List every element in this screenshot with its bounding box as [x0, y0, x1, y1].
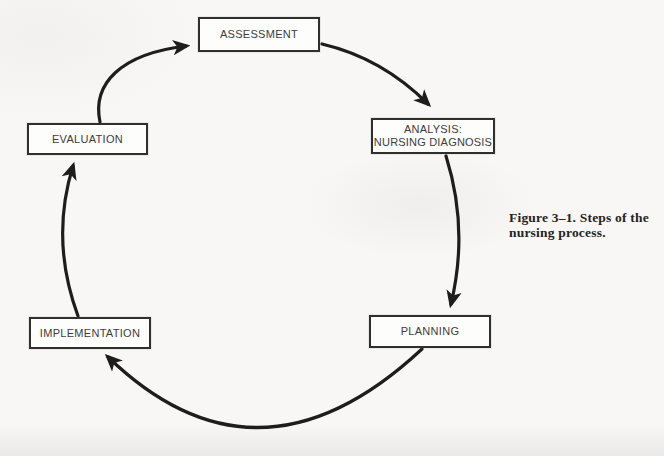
node-planning-label: PLANNING — [401, 325, 460, 338]
node-analysis-label-line2: NURSING DIAGNOSIS — [374, 136, 492, 149]
arrow-assessment-to-analysis — [322, 44, 428, 104]
node-implementation: IMPLEMENTATION — [29, 317, 151, 349]
figure-caption-line1: Figure 3–1. Steps of the — [509, 210, 659, 225]
node-planning: PLANNING — [369, 315, 491, 348]
arrow-implementation-to-evaluation — [63, 166, 78, 316]
node-assessment: ASSESSMENT — [198, 17, 320, 52]
arrow-evaluation-to-assessment — [99, 46, 186, 122]
node-evaluation: EVALUATION — [27, 123, 148, 155]
figure-page: ASSESSMENT ANALYSIS: NURSING DIAGNOSIS P… — [0, 0, 664, 456]
node-implementation-label: IMPLEMENTATION — [40, 327, 140, 340]
arrow-planning-to-implementation — [108, 349, 422, 428]
node-assessment-label: ASSESSMENT — [220, 28, 298, 41]
node-analysis-nursing-diagnosis: ANALYSIS: NURSING DIAGNOSIS — [371, 118, 495, 154]
figure-caption-line2: nursing process. — [509, 225, 659, 240]
node-evaluation-label: EVALUATION — [52, 133, 123, 146]
arrow-analysis-to-planning — [446, 156, 459, 304]
figure-caption: Figure 3–1. Steps of the nursing process… — [509, 210, 659, 240]
node-analysis-label-line1: ANALYSIS: — [404, 123, 462, 136]
